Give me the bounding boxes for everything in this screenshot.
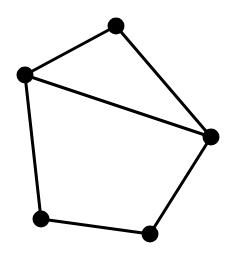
node-left (17, 67, 34, 84)
edge-bottom-left-bottom-right (41, 219, 150, 234)
node-right (203, 129, 220, 146)
node-bottom-right (142, 226, 159, 243)
edges-group (25, 26, 211, 234)
node-bottom-left (33, 211, 50, 228)
edge-top-left (25, 26, 116, 75)
node-top (108, 18, 125, 35)
graph-diagram (0, 0, 229, 254)
edge-left-bottom-left (25, 75, 41, 219)
edge-bottom-right-right (150, 137, 211, 234)
